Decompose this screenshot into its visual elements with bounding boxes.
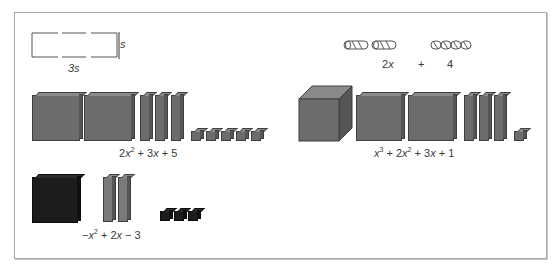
cylinder-rods-diagram <box>342 38 502 52</box>
negative-unit-tile <box>188 211 198 221</box>
x-tile <box>103 177 113 222</box>
x-tile <box>140 95 150 141</box>
x-squared-tile <box>408 95 454 141</box>
polynomial-a-label: 2x2 + 3x + 5 <box>119 147 177 159</box>
polynomial-b-label: x3 + 2x2 + 3x + 1 <box>374 147 454 159</box>
unit-tile <box>206 131 216 141</box>
unit-tile <box>221 131 231 141</box>
x-tile <box>494 95 504 141</box>
cylinder-plus-sign: + <box>418 58 424 70</box>
x-tile <box>479 95 489 141</box>
rectangle-width-label: 3s <box>68 62 80 74</box>
cylinder-term-2x: 2x <box>382 58 394 70</box>
negative-unit-tile <box>160 211 170 221</box>
unit-tile <box>236 131 246 141</box>
dashed-rectangle-diagram <box>30 30 130 70</box>
long-cylinder-icon <box>344 41 368 49</box>
polynomial-c-label: −x2 + 2x − 3 <box>82 229 141 241</box>
x-squared-tile <box>84 95 132 141</box>
rectangle-height-label: s <box>120 38 126 50</box>
x-tile <box>464 95 474 141</box>
x-tile <box>171 95 181 141</box>
unit-tile <box>251 131 261 141</box>
x-tile <box>155 95 165 141</box>
x-squared-tile <box>32 95 80 141</box>
cylinder-term-4: 4 <box>447 58 453 70</box>
x-tile <box>118 177 128 222</box>
unit-tile <box>191 131 201 141</box>
negative-unit-tile <box>174 211 184 221</box>
x-squared-tile <box>356 95 402 141</box>
negative-x-squared-tile <box>32 177 78 223</box>
unit-tile <box>514 131 524 141</box>
x-cubed-cube <box>298 85 354 143</box>
